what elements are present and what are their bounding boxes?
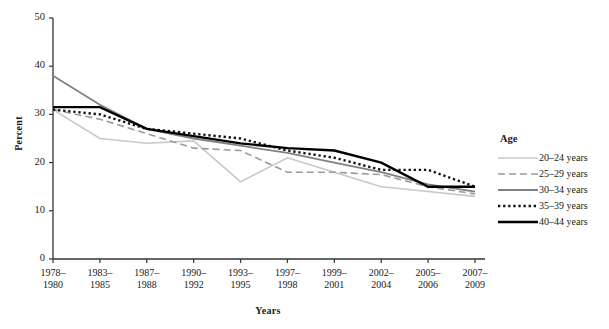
x-tick-label: 2007–2009 [448,267,502,291]
legend-swatch-icon [498,169,538,179]
legend-item-label: 30–34 years [538,184,588,195]
legend-swatch-icon [498,185,538,195]
x-tick-label: 1987–1988 [120,267,174,291]
x-tick-label: 1999–2001 [307,267,361,291]
legend-item-label: 20–24 years [538,152,588,163]
x-tick-label: 1990–1992 [167,267,221,291]
series-line-2 [53,110,475,194]
x-tick-label: 1997–1998 [260,267,314,291]
x-tick-label: 1983–1985 [73,267,127,291]
legend-rows: 20–24 years25–29 years30–34 years35–39 y… [498,150,606,229]
y-tick-label: 0 [21,253,45,263]
series-group [53,76,475,197]
legend-item-5[interactable]: 40–44 years [498,214,606,229]
legend-item-2[interactable]: 25–29 years [498,166,606,181]
legend-item-3[interactable]: 30–34 years [498,182,606,197]
legend-item-label: 40–44 years [538,216,588,227]
series-line-5 [53,107,475,187]
x-axis-title: Years [218,305,318,316]
legend-swatch-icon [498,201,538,211]
legend-swatch-icon [498,153,538,163]
y-tick-label: 50 [21,12,45,22]
x-tick-label: 2002–2004 [354,267,408,291]
legend-item-4[interactable]: 35–39 years [498,198,606,213]
y-tick-label: 20 [21,157,45,167]
legend-item-label: 25–29 years [538,168,588,179]
legend-item-label: 35–39 years [538,200,588,211]
y-tick-label: 30 [21,108,45,118]
x-tick-label: 2005–2006 [401,267,455,291]
y-tick-label: 40 [21,60,45,70]
chart-legend: Age 20–24 years25–29 years30–34 years35–… [498,133,606,230]
x-tick-label: 1993–1995 [214,267,268,291]
legend-item-1[interactable]: 20–24 years [498,150,606,165]
chart-figure: Percent Years 01020304050 1978–19801983–… [0,0,609,329]
series-line-3 [53,76,475,192]
y-tick-label: 10 [21,205,45,215]
series-line-4 [53,110,475,187]
series-line-1 [53,110,475,197]
legend-swatch-icon [498,217,538,227]
legend-title: Age [500,133,606,144]
